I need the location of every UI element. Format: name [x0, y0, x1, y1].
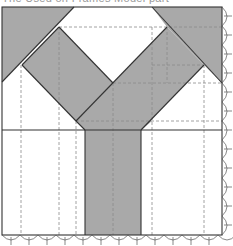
junction — [76, 121, 152, 130]
right-scallops — [222, 7, 232, 235]
bottom-scallops — [2, 235, 233, 245]
y-block-diagram — [0, 0, 233, 246]
